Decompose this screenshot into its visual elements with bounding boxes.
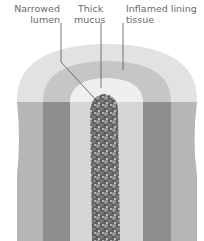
narrowed-lumen (90, 94, 120, 241)
airway-cross-section-diagram (0, 0, 204, 241)
